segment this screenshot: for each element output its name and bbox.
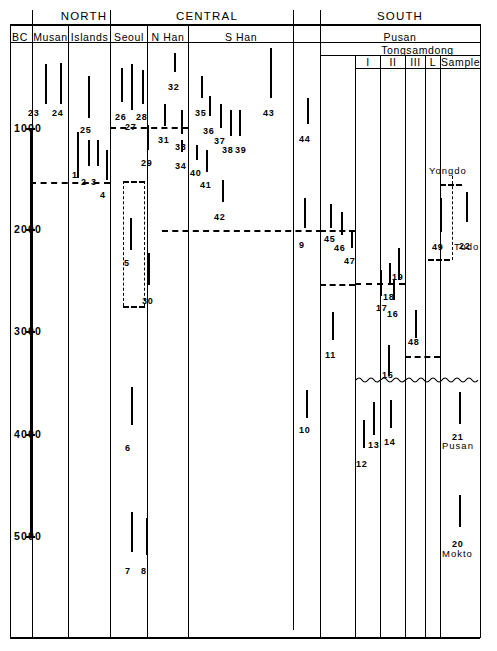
sample-number-label: 39 (235, 145, 246, 155)
axis-tick-label: 2000 (14, 223, 42, 235)
col-divider-sample (440, 55, 441, 638)
sample-number-label: 16 (387, 309, 398, 319)
sample-range-bar (88, 76, 90, 118)
sample-range-bar (220, 104, 222, 128)
sample-number-label: 27 (125, 122, 136, 132)
sample-range-bar (440, 198, 442, 232)
sample-number-label: 35 (195, 108, 206, 118)
sample-number-label: 14 (384, 437, 395, 447)
sample-number-label: 31 (158, 135, 169, 145)
sample-range-bar (201, 76, 203, 98)
sample-number-label: 29 (141, 158, 152, 168)
wavy-line-tongsamdong-i (356, 376, 380, 384)
column-header: Tongsamdong (355, 44, 480, 56)
sample-number-label: 49 (432, 242, 443, 252)
sample-range-bar (459, 392, 461, 424)
sample-number-label: 3 (91, 177, 97, 187)
column-header: Musan (33, 31, 68, 43)
sample-range-bar (121, 68, 123, 102)
yongdo-tudo-divider-dash (452, 176, 453, 260)
horizon-islands-dash (110, 127, 188, 129)
col-divider-tongl (425, 55, 426, 638)
site-name-label: Mokto (442, 548, 473, 559)
sample-number-label: 40 (190, 168, 201, 178)
column-header: Sample (441, 56, 480, 68)
sample-number-label: 4 (100, 190, 106, 200)
sample-number-label: 17 (376, 303, 387, 313)
sample-number-label: 1 (72, 170, 78, 180)
sample-range-bar (131, 64, 133, 110)
sample-range-bar (466, 192, 468, 222)
sample-range-bar (373, 402, 375, 435)
seoul-box-right-dash (144, 181, 145, 306)
sample-range-bar (239, 110, 241, 136)
sample-range-bar (131, 512, 133, 552)
sample-range-bar (146, 518, 148, 555)
column-header: Pusan (320, 31, 480, 43)
sample-range-bar (60, 63, 62, 104)
sample-number-label: 5 (124, 258, 130, 268)
sample-number-label: 7 (125, 566, 131, 576)
sample-range-bar (45, 64, 47, 104)
column-header: II (381, 56, 405, 68)
col-divider-musan (68, 24, 69, 638)
column-header: Seoul (111, 31, 147, 43)
column-header: Islands (69, 31, 110, 43)
sample-range-bar (97, 140, 99, 166)
sample-range-bar (142, 70, 144, 104)
sample-range-bar (148, 253, 150, 285)
column-header: I (356, 56, 380, 68)
col-divider-tong3 (405, 55, 406, 638)
horizon-pusan-dash (320, 230, 355, 232)
site-name-label: Pusan (442, 440, 474, 451)
sample-number-label: 32 (168, 82, 179, 92)
sample-number-label: 47 (344, 256, 355, 266)
sample-number-label: 28 (136, 112, 147, 122)
sample-range-bar (380, 270, 382, 296)
horizon-musan-dash (30, 182, 110, 184)
col-divider-tong1 (355, 55, 356, 638)
sample-number-label: 30 (142, 296, 153, 306)
frame-left-edge (10, 24, 11, 638)
sample-number-label: 46 (334, 243, 345, 253)
sample-number-label: 23 (28, 108, 39, 118)
wavy-line-sample-column (406, 376, 480, 384)
sample-range-bar (332, 312, 334, 340)
sample-range-bar (390, 400, 392, 428)
sample-number-label: 26 (115, 112, 126, 122)
sample-range-bar (181, 140, 183, 152)
col-divider-pusan (320, 24, 321, 638)
horizon-sample-bottom-dash (428, 259, 450, 261)
sample-number-label: 15 (382, 370, 393, 380)
sample-number-label: 10 (299, 425, 310, 435)
site-name-label: Tudo (454, 241, 479, 252)
column-header: S Han (189, 31, 293, 43)
sample-range-bar (164, 104, 166, 126)
sample-range-bar (209, 96, 211, 116)
sample-number-label: 13 (368, 440, 379, 450)
sample-range-bar (306, 390, 308, 418)
seoul-box-top-dash (123, 181, 145, 183)
sample-range-bar (174, 53, 176, 72)
sample-range-bar (304, 198, 306, 228)
sample-number-label: 9 (299, 240, 305, 250)
axis-tick-label: 4000 (14, 428, 42, 440)
sample-number-label: 25 (80, 125, 91, 135)
region-title: CENTRAL (121, 10, 293, 22)
sample-range-bar (415, 310, 417, 338)
sample-range-bar (130, 218, 132, 250)
sample-range-bar (341, 212, 343, 235)
sample-range-bar (196, 145, 198, 160)
tongsamdong-band-bottom-rule (355, 68, 480, 69)
sample-range-bar (131, 387, 133, 425)
sample-range-bar (330, 204, 332, 228)
chronology-chart: NORTHCENTRALSOUTH BCMusanIslandsSeoulN H… (0, 0, 497, 651)
axis-tick-label: 1000 (14, 122, 42, 134)
seoul-box-bottom-dash (123, 306, 145, 308)
sample-number-label: 38 (222, 145, 233, 155)
horizon-sample-top-dash (440, 184, 462, 186)
frame-bottom-rule (10, 637, 480, 639)
sample-number-label: 12 (356, 459, 367, 469)
sample-number-label: 42 (214, 212, 225, 222)
sample-range-bar (307, 98, 309, 124)
